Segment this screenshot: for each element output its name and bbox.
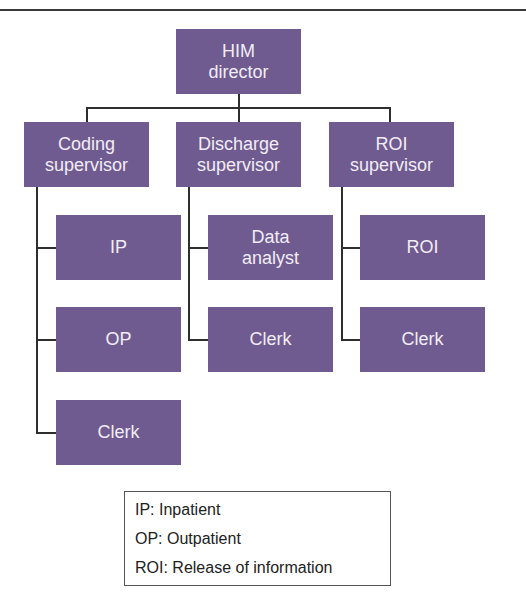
box-label: OP (105, 329, 131, 350)
roi-clerk-box: Clerk (360, 307, 485, 372)
box-label-line2: supervisor (350, 155, 433, 176)
discharge-branch-line (188, 187, 190, 340)
roi-branch-line (341, 187, 343, 340)
roi-tick-roi (341, 247, 360, 249)
coding-clerk-box: Clerk (56, 400, 181, 465)
coding-supervisor-box: Coding supervisor (24, 122, 149, 187)
discharge-tick-clerk (188, 339, 208, 341)
coding-drop-line (86, 107, 88, 122)
coding-tick-ip (36, 247, 56, 249)
box-label-line2: supervisor (45, 155, 128, 176)
box-label: ROI (406, 237, 438, 258)
legend-item-op: OP: Outpatient (135, 524, 390, 553)
box-label-line2: supervisor (197, 155, 280, 176)
op-box: OP (56, 307, 181, 372)
box-label: IP (110, 237, 127, 258)
legend-box: IP: Inpatient OP: Outpatient ROI: Releas… (124, 491, 391, 586)
box-label-line1: Discharge (197, 134, 280, 155)
box-label: Clerk (249, 329, 291, 350)
legend-item-roi: ROI: Release of information (135, 553, 390, 582)
coding-tick-clerk (36, 432, 56, 434)
data-analyst-box: Data analyst (208, 215, 333, 280)
roi-drop-line (389, 107, 391, 122)
box-label: Clerk (97, 422, 139, 443)
top-rule (0, 9, 526, 11)
box-label-line1: HIM (208, 41, 268, 62)
legend-item-ip: IP: Inpatient (135, 495, 390, 524)
roi-box: ROI (360, 215, 485, 280)
supervisor-bus-line (86, 107, 391, 109)
box-label-line2: analyst (242, 248, 299, 269)
box-label-line1: Data (242, 227, 299, 248)
box-label-line2: director (208, 62, 268, 83)
box-label-line1: ROI (350, 134, 433, 155)
discharge-supervisor-box: Discharge supervisor (176, 122, 301, 187)
box-label-line1: Coding (45, 134, 128, 155)
him-director-box: HIM director (176, 29, 301, 94)
roi-tick-clerk (341, 339, 360, 341)
discharge-tick-analyst (188, 247, 208, 249)
coding-branch-line (36, 187, 38, 433)
discharge-clerk-box: Clerk (208, 307, 333, 372)
box-label: Clerk (401, 329, 443, 350)
coding-tick-op (36, 339, 56, 341)
ip-box: IP (56, 215, 181, 280)
roi-supervisor-box: ROI supervisor (329, 122, 454, 187)
